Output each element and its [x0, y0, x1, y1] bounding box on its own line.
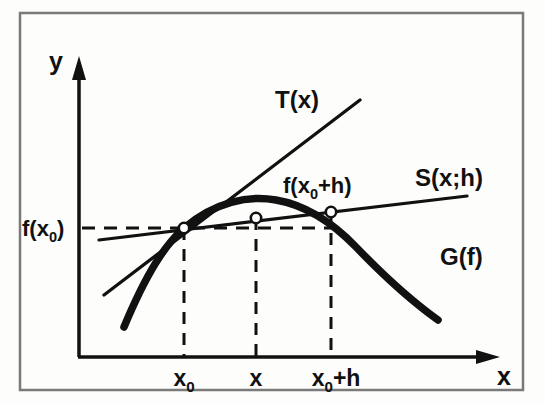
y-axis-label: y — [49, 47, 63, 75]
tick-label-x: x — [250, 365, 263, 391]
f-x0-plus-h-subscript: 0 — [310, 186, 318, 202]
tick-x0h-subscript: 0 — [324, 378, 332, 395]
tick-x0-base: x — [173, 365, 186, 391]
tick-x0h-base: x — [312, 365, 325, 391]
secant-label: S(x;h) — [415, 164, 483, 191]
tick-x0h-suffix: +h — [333, 365, 360, 391]
figure-container: y x T(x) S(x;h) G(f) f(x0+h) f(x0) x0 x … — [0, 0, 545, 403]
f-x0-base: f(x — [22, 216, 50, 241]
graph-label: G(f) — [440, 243, 483, 270]
f-x0-axis-label: f(x0) — [22, 216, 64, 245]
f-x0-subscript: 0 — [49, 229, 57, 245]
tangent-label: T(x) — [275, 86, 319, 113]
x-axis-label: x — [497, 362, 511, 390]
diagram-canvas: y x T(x) S(x;h) G(f) f(x0+h) f(x0) x0 x … — [0, 0, 545, 403]
point-x0 — [179, 223, 189, 233]
tick-label-x0-plus-h: x0+h — [312, 365, 361, 395]
tick-x0-subscript: 0 — [186, 378, 194, 395]
f-x0-close: ) — [57, 216, 64, 241]
f-x0-plus-h-suffix: +h) — [318, 173, 352, 198]
f-x0-plus-h-base: f(x — [283, 173, 311, 198]
point-x0-plus-h — [326, 207, 336, 217]
f-x0-plus-h-label: f(x0+h) — [283, 173, 352, 202]
point-x — [251, 213, 261, 223]
